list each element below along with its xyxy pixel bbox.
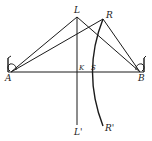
line-r-b xyxy=(103,19,140,72)
geometry-diagram: L R A B K S L' R' xyxy=(0,0,152,141)
line-l-b xyxy=(77,17,140,72)
label-s: S xyxy=(91,64,96,72)
label-b: B xyxy=(137,73,145,83)
label-r: R xyxy=(105,10,113,20)
label-k: K xyxy=(78,64,85,72)
line-a-r xyxy=(11,19,103,72)
label-l: L xyxy=(73,5,80,15)
label-a: A xyxy=(4,73,12,83)
line-a-l xyxy=(11,17,77,72)
label-r-prime: R' xyxy=(104,123,114,133)
label-l-prime: L' xyxy=(73,127,82,137)
